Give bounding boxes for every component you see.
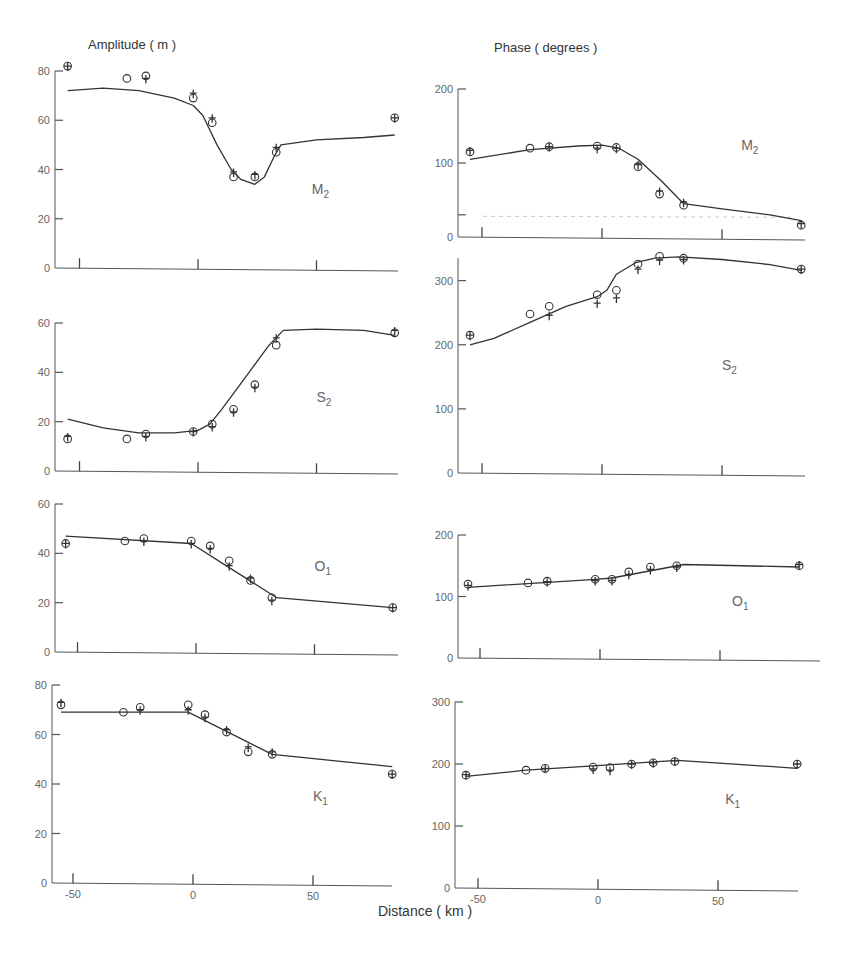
- y-tick-label: 200: [435, 529, 453, 541]
- cross-marker: [613, 294, 620, 303]
- y-tick-label: 200: [432, 758, 450, 770]
- x-axis: [458, 473, 805, 476]
- y-tick-label: 0: [447, 467, 453, 479]
- model-curve: [470, 145, 801, 221]
- y-tick-label: 200: [435, 339, 453, 351]
- y-tick-label: 40: [35, 778, 47, 790]
- reference-dashed-line: [483, 216, 795, 217]
- y-tick-label: 20: [38, 416, 50, 428]
- constituent-label: S2: [317, 389, 332, 408]
- cross-marker: [251, 171, 258, 180]
- y-tick-label: 20: [35, 828, 47, 840]
- model-curve: [468, 565, 799, 588]
- constituent-label: S2: [722, 357, 737, 376]
- y-tick-label: 40: [38, 547, 50, 559]
- y-tick-label: 60: [38, 317, 50, 329]
- x-tick-label: 0: [190, 889, 196, 901]
- x-axis: [55, 471, 398, 474]
- cross-marker: [64, 433, 71, 442]
- panel-k1-phase: 0100200300-50050K1: [432, 696, 801, 907]
- y-tick-label: 80: [35, 679, 47, 691]
- y-tick-label: 20: [38, 597, 50, 609]
- cross-marker: [58, 699, 65, 708]
- y-tick-label: 0: [44, 646, 50, 658]
- y-tick-label: 60: [35, 729, 47, 741]
- y-tick-label: 20: [38, 213, 50, 225]
- cross-marker: [592, 577, 599, 586]
- constituent-label: O1: [315, 558, 332, 577]
- constituent-label: K1: [313, 788, 328, 807]
- constituent-label: K1: [725, 791, 740, 810]
- y-tick-label: 100: [435, 157, 453, 169]
- y-tick-label: 40: [38, 366, 50, 378]
- y-tick-label: 0: [447, 231, 453, 243]
- y-tick-label: 100: [435, 403, 453, 415]
- y-tick-label: 40: [38, 164, 50, 176]
- x-axis: [55, 652, 398, 655]
- panel-k1-amp: 020406080-50050K1: [35, 679, 396, 902]
- y-tick-label: 100: [435, 591, 453, 603]
- cross-marker: [391, 327, 398, 336]
- cross-marker: [247, 575, 254, 584]
- y-tick-label: 200: [435, 83, 453, 95]
- x-tick-label: -50: [470, 893, 486, 905]
- circle-marker: [526, 310, 534, 318]
- constituent-label: O1: [732, 593, 749, 612]
- x-tick-label: 0: [595, 894, 601, 906]
- y-tick-label: 100: [432, 820, 450, 832]
- panel-o1-phase: 0100200O1: [435, 529, 820, 664]
- x-tick-label: 50: [307, 890, 319, 902]
- y-tick-label: 300: [435, 275, 453, 287]
- constituent-label: M2: [312, 181, 330, 200]
- panel-s2-phase: 0100200300S2: [435, 252, 805, 479]
- x-axis: [458, 237, 805, 240]
- y-tick-label: 60: [38, 114, 50, 126]
- y-tick-label: 80: [38, 65, 50, 77]
- x-tick-label: -50: [65, 888, 81, 900]
- x-tick-label: 50: [712, 895, 724, 907]
- circle-marker: [545, 302, 553, 310]
- x-axis: [55, 268, 398, 271]
- model-curve: [68, 329, 395, 433]
- cross-marker: [465, 582, 472, 591]
- x-axis: [52, 883, 392, 886]
- y-tick-label: 0: [447, 652, 453, 664]
- circle-marker: [613, 286, 621, 294]
- panel-m2-phase: 0100200M2: [435, 83, 805, 243]
- y-tick-label: 0: [44, 262, 50, 274]
- model-curve: [66, 536, 393, 608]
- panel-m2-amp: 020406080M2: [38, 62, 399, 274]
- model-curve: [61, 712, 392, 767]
- model-curve: [470, 257, 801, 345]
- x-axis: [455, 888, 798, 891]
- cross-marker: [594, 300, 601, 309]
- y-tick-label: 0: [444, 882, 450, 894]
- y-tick-label: 0: [41, 877, 47, 889]
- tidal-constituent-figure: 020406080M20100200M20204060S20100200300S…: [0, 0, 849, 968]
- circle-marker: [123, 75, 131, 83]
- panel-s2-amp: 0204060S2: [38, 317, 399, 477]
- y-tick-label: 300: [432, 696, 450, 708]
- circle-marker: [121, 537, 129, 545]
- model-curve: [68, 88, 395, 184]
- y-tick-label: 60: [38, 498, 50, 510]
- constituent-label: M2: [741, 137, 759, 156]
- x-axis: [458, 658, 820, 661]
- circle-marker: [526, 144, 534, 152]
- panel-o1-amp: 0204060O1: [38, 498, 398, 658]
- circle-marker: [123, 435, 131, 443]
- y-tick-label: 0: [44, 465, 50, 477]
